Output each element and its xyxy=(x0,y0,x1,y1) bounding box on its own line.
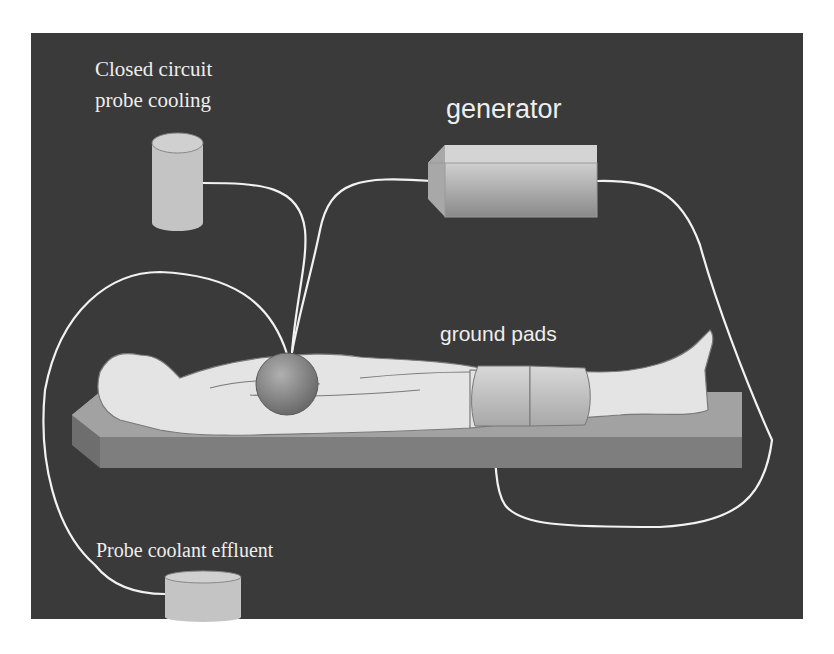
ablation-zone-sphere xyxy=(256,353,318,415)
wire-cooling-to-probe xyxy=(203,183,305,352)
effluent-label: Probe coolant effluent xyxy=(96,538,273,563)
cooling-label-line1: Closed circuit xyxy=(95,57,212,82)
generator-icon xyxy=(428,145,597,217)
cooling-label-line2: probe cooling xyxy=(95,88,211,113)
wire-generator-to-pads xyxy=(495,181,772,527)
effluent-container-icon xyxy=(165,571,241,622)
cooling-reservoir-icon xyxy=(152,133,203,231)
ground-pads-icon xyxy=(472,366,591,426)
wire-generator-to-probe xyxy=(292,179,432,352)
ground-pads-label: ground pads xyxy=(440,322,557,346)
generator-label: generator xyxy=(446,94,562,125)
